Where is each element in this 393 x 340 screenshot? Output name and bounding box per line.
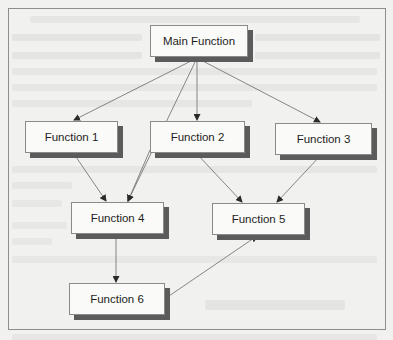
node-label: Function 1	[45, 131, 99, 143]
edge-f3-to-f5	[277, 156, 320, 202]
node-label: Function 4	[91, 212, 145, 224]
node-function-5: Function 5	[212, 203, 305, 235]
node-label: Function 3	[297, 133, 351, 145]
node-label: Main Function	[163, 35, 235, 47]
edge-main-to-f3	[197, 58, 320, 122]
edge-f2-to-f5	[197, 154, 242, 202]
node-function-2: Function 2	[150, 121, 245, 153]
edge-f2-to-f4	[128, 150, 150, 201]
edge-main-to-f1	[74, 58, 197, 120]
node-label: Function 2	[171, 131, 225, 143]
node-main-function: Main Function	[150, 25, 248, 57]
node-function-3: Function 3	[275, 123, 372, 155]
node-function-6: Function 6	[69, 283, 165, 315]
node-label: Function 5	[232, 213, 286, 225]
node-function-1: Function 1	[25, 121, 118, 153]
node-function-4: Function 4	[71, 202, 164, 234]
node-label: Function 6	[90, 293, 144, 305]
edge-f1-to-f4	[74, 154, 106, 201]
edge-f6-to-f5	[166, 236, 257, 298]
